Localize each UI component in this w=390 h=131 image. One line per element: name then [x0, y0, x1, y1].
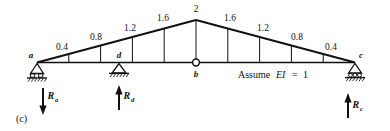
- reaction-arrow-Rd: [115, 85, 122, 110]
- ordinate-label-4: 1.6: [224, 13, 236, 23]
- ordinate-label-5: 1.2: [257, 23, 269, 33]
- assumption-note: Assume EI = 1: [238, 69, 308, 80]
- figure-label: (c): [16, 113, 27, 125]
- ordinate-label-3: 1.6: [157, 13, 169, 23]
- support-c: [345, 64, 365, 82]
- assumption-symbol: EI: [275, 69, 286, 80]
- ordinate-label-1: 0.8: [90, 32, 102, 42]
- assumption-prefix: Assume: [238, 69, 271, 80]
- ordinate-label-6: 0.8: [291, 32, 303, 42]
- node-label-d: d: [117, 50, 122, 60]
- assumption-value: 1: [303, 69, 308, 80]
- node-label-b: b: [194, 69, 199, 79]
- reaction-subscript-Rc: c: [360, 105, 363, 112]
- truss-diagram-svg: 0.4 0.8 1.2 1.6 2 1.6 1.2 0.8 0.4 a: [0, 0, 390, 131]
- reaction-arrow-Rc: [344, 93, 351, 118]
- support-a: [27, 64, 47, 82]
- ordinate-label-2: 1.2: [124, 23, 136, 33]
- ordinate-label-0: 0.4: [56, 42, 68, 52]
- reaction-arrow-Ra: [39, 88, 46, 115]
- ordinate-label-apex: 2: [194, 4, 199, 14]
- node-label-c: c: [359, 50, 363, 60]
- ordinate-label-7: 0.4: [325, 42, 337, 52]
- node-label-a: a: [29, 50, 34, 60]
- reaction-subscript-Rd: d: [131, 96, 135, 103]
- reaction-label-Ra: R: [47, 90, 55, 101]
- internal-hinge-b: [193, 59, 200, 66]
- reaction-label-Rc: R: [352, 99, 360, 110]
- assumption-equals: =: [292, 69, 298, 80]
- reaction-label-Rd: R: [123, 90, 131, 101]
- structural-truss-figure: 0.4 0.8 1.2 1.6 2 1.6 1.2 0.8 0.4 a: [0, 0, 390, 131]
- support-d: [109, 64, 129, 78]
- reaction-subscript-Ra: a: [55, 96, 59, 103]
